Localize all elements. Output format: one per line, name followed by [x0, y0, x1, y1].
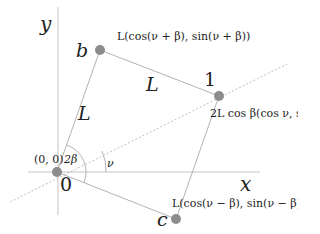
angle-label-two-beta: 2β — [64, 154, 77, 165]
point-b-coord: L(cos(ν + β), sin(ν + β)) — [117, 31, 250, 42]
nu-arc — [102, 151, 106, 172]
point-one-coord: 2L cos β(cos ν, sin ν) — [210, 108, 298, 119]
point-c-name: c — [157, 210, 168, 229]
side-b-one — [100, 50, 219, 96]
edge-label-top: L — [146, 75, 159, 94]
point-c-coord: L(cos(ν − β), sin(ν − β)) — [172, 198, 298, 209]
point-b — [95, 45, 105, 55]
y-axis-label: y — [40, 14, 51, 34]
point-one-name: 1 — [204, 70, 216, 89]
angle-label-nu: ν — [107, 158, 114, 169]
point-b-name: b — [76, 41, 88, 60]
edge-label-left: L — [78, 104, 91, 123]
point-origin-coord: (0, 0) — [34, 154, 64, 165]
x-axis-label: x — [240, 174, 251, 194]
point-c — [171, 214, 181, 224]
point-one — [214, 91, 224, 101]
point-origin-name: 0 — [60, 175, 72, 194]
